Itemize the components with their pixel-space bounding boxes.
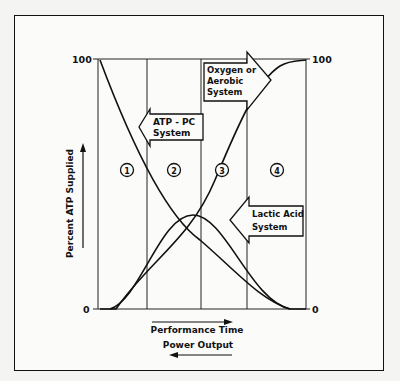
- svg-text:System: System: [207, 87, 243, 97]
- phase-marker-3: 3: [216, 164, 229, 177]
- svg-text:Oxygen or: Oxygen or: [207, 65, 257, 75]
- atp-pc-callout: ATP - PC System: [139, 109, 203, 146]
- aerobic-callout: Oxygen or Aerobic System: [204, 52, 271, 110]
- svg-text:Aerobic: Aerobic: [207, 76, 243, 86]
- energy-systems-chart: 100 0 100 0 Percent ATP Supplied 1 2 3 4…: [0, 0, 400, 381]
- svg-text:3: 3: [219, 167, 225, 176]
- left-arrow-icon: [230, 197, 303, 243]
- phase-marker-4: 4: [271, 164, 284, 177]
- svg-text:ATP - PC: ATP - PC: [153, 117, 196, 127]
- y-tick-0-left: 0: [83, 304, 90, 315]
- svg-text:2: 2: [171, 167, 177, 176]
- svg-text:4: 4: [274, 167, 280, 176]
- atp-pc-curve: [100, 60, 306, 309]
- plot-grid: [93, 59, 310, 309]
- lactic-acid-callout: Lactic Acid System: [230, 197, 304, 243]
- svg-text:1: 1: [124, 167, 130, 176]
- y-axis-arrow-icon: [80, 143, 86, 248]
- y-tick-100-right: 100: [312, 54, 332, 65]
- phase-marker-2: 2: [168, 164, 181, 177]
- x-axis-label: Performance Time: [151, 325, 244, 335]
- svg-text:Lactic Acid: Lactic Acid: [252, 209, 304, 219]
- x-axis-secondary-label: Power Output: [163, 340, 234, 350]
- y-tick-0-right: 0: [312, 304, 319, 315]
- svg-text:System: System: [153, 128, 191, 138]
- y-axis-label: Percent ATP Supplied: [65, 149, 75, 258]
- phase-marker-1: 1: [121, 164, 134, 177]
- y-tick-100-left: 100: [72, 54, 92, 65]
- power-output-arrow-icon: [169, 352, 232, 358]
- aerobic-curve: [100, 60, 306, 309]
- svg-text:System: System: [252, 222, 288, 232]
